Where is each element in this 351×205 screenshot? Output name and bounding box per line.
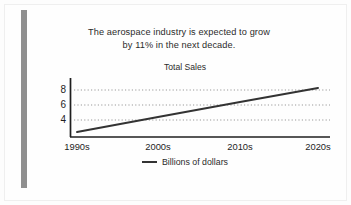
gridlines xyxy=(74,90,330,120)
x-tick-label-2020s: 2020s xyxy=(295,142,341,152)
x-tick-label-2000s: 2000s xyxy=(135,142,181,152)
y-tick-label-6: 6 xyxy=(52,100,66,110)
legend-line-swatch xyxy=(142,161,157,163)
x-tick-label-1990s: 1990s xyxy=(54,142,100,152)
y-tick-label-4: 4 xyxy=(52,115,66,125)
legend-label: Billions of dollars xyxy=(162,157,228,167)
screenshot-root: The aerospace industry is expected to gr… xyxy=(0,0,351,205)
series-line-billions-of-dollars xyxy=(77,88,318,132)
chart-legend: Billions of dollars xyxy=(60,157,310,167)
y-tick-label-8: 8 xyxy=(52,85,66,95)
x-tick-label-2010s: 2010s xyxy=(217,142,263,152)
